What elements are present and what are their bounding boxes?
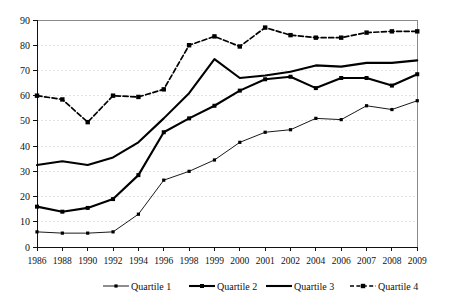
data-point-marker xyxy=(314,35,318,39)
data-point-marker xyxy=(188,170,191,173)
chart-canvas: 0102030405060708090 19861988199019921994… xyxy=(0,0,454,302)
data-point-marker xyxy=(415,29,419,33)
series-2 xyxy=(35,72,419,213)
x-tick-label: 1988 xyxy=(53,256,72,266)
y-tick-label: 10 xyxy=(20,216,30,227)
data-point-marker xyxy=(238,44,242,48)
data-point-marker xyxy=(289,75,293,79)
y-tick-label: 50 xyxy=(20,115,30,126)
legend-label: Quartile 2 xyxy=(217,281,257,292)
data-point-marker xyxy=(416,99,419,102)
data-point-marker xyxy=(314,117,317,120)
data-point-marker xyxy=(263,77,267,81)
data-point-marker xyxy=(212,34,216,38)
y-tick-label: 80 xyxy=(20,40,30,51)
data-series-group xyxy=(35,25,420,234)
data-point-marker xyxy=(289,128,292,131)
data-point-marker xyxy=(213,158,216,161)
y-axis-ticks: 0102030405060708090 xyxy=(20,15,37,253)
data-point-marker xyxy=(35,230,38,233)
series-3 xyxy=(37,59,417,165)
plot-frame xyxy=(37,20,417,247)
y-tick-label: 0 xyxy=(25,242,30,253)
series-line xyxy=(37,59,417,165)
legend-marker-sample xyxy=(114,284,117,287)
x-tick-label: 1999 xyxy=(205,256,224,266)
data-point-marker xyxy=(35,205,39,209)
x-tick-label: 1996 xyxy=(154,256,173,266)
x-tick-label: 2001 xyxy=(256,256,275,266)
legend-item-4[interactable]: Quartile 4 xyxy=(350,281,418,292)
legend-item-2[interactable]: Quartile 2 xyxy=(189,281,257,292)
data-point-marker xyxy=(415,72,419,76)
data-point-marker xyxy=(390,84,394,88)
series-1 xyxy=(35,99,418,235)
data-point-marker xyxy=(162,87,166,91)
data-point-marker xyxy=(187,116,191,120)
legend-item-1[interactable]: Quartile 1 xyxy=(103,281,171,292)
data-point-marker xyxy=(111,93,115,97)
x-tick-label: 2002 xyxy=(281,256,300,266)
data-point-marker xyxy=(86,232,89,235)
x-tick-label: 2007 xyxy=(357,256,376,266)
legend-marker-sample xyxy=(361,284,365,288)
data-point-marker xyxy=(86,120,90,124)
data-point-marker xyxy=(137,213,140,216)
data-point-marker xyxy=(162,130,166,134)
line-chart: 0102030405060708090 19861988199019921994… xyxy=(0,0,454,302)
x-tick-label: 1994 xyxy=(129,256,148,266)
x-tick-label: 2004 xyxy=(306,256,325,266)
data-point-marker xyxy=(61,232,64,235)
data-point-marker xyxy=(339,76,343,80)
x-tick-label: 1986 xyxy=(28,256,47,266)
data-point-marker xyxy=(264,131,267,134)
data-point-marker xyxy=(136,173,140,177)
y-tick-label: 60 xyxy=(20,90,30,101)
data-point-marker xyxy=(263,25,267,29)
data-point-marker xyxy=(136,95,140,99)
x-tick-label: 1992 xyxy=(104,256,123,266)
data-point-marker xyxy=(340,118,343,121)
data-point-marker xyxy=(238,141,241,144)
legend-label: Quartile 3 xyxy=(294,281,334,292)
data-point-marker xyxy=(60,97,64,101)
data-point-marker xyxy=(111,230,114,233)
data-point-marker xyxy=(365,104,368,107)
x-tick-label: 2000 xyxy=(230,256,249,266)
data-point-marker xyxy=(364,30,368,34)
x-tick-label: 2008 xyxy=(382,256,401,266)
y-tick-label: 70 xyxy=(20,65,30,76)
series-4 xyxy=(35,25,420,124)
data-point-marker xyxy=(238,89,242,93)
chart-legend: Quartile 1Quartile 2Quartile 3Quartile 4 xyxy=(103,281,418,292)
x-tick-label: 1998 xyxy=(180,256,199,266)
data-point-marker xyxy=(212,104,216,108)
data-point-marker xyxy=(390,108,393,111)
data-point-marker xyxy=(390,29,394,33)
gridlines xyxy=(37,20,417,222)
data-point-marker xyxy=(314,86,318,90)
x-axis-ticks: 1986198819901992199419961998199920002001… xyxy=(28,247,428,266)
y-tick-label: 20 xyxy=(20,191,30,202)
legend-label: Quartile 1 xyxy=(131,281,171,292)
y-tick-label: 40 xyxy=(20,141,30,152)
legend-item-3[interactable]: Quartile 3 xyxy=(266,281,334,292)
data-point-marker xyxy=(35,93,39,97)
data-point-marker xyxy=(162,179,165,182)
data-point-marker xyxy=(60,210,64,214)
x-tick-label: 2006 xyxy=(332,256,351,266)
legend-marker-sample xyxy=(200,284,204,288)
data-point-marker xyxy=(187,43,191,47)
data-point-marker xyxy=(339,35,343,39)
data-point-marker xyxy=(86,206,90,210)
y-tick-label: 30 xyxy=(20,166,30,177)
legend-label: Quartile 4 xyxy=(378,281,418,292)
x-tick-label: 1990 xyxy=(78,256,97,266)
x-tick-label: 2009 xyxy=(408,256,427,266)
data-point-marker xyxy=(111,197,115,201)
series-line xyxy=(37,28,417,123)
y-tick-label: 90 xyxy=(20,15,30,26)
data-point-marker xyxy=(365,76,369,80)
data-point-marker xyxy=(288,33,292,37)
series-line xyxy=(37,74,417,211)
